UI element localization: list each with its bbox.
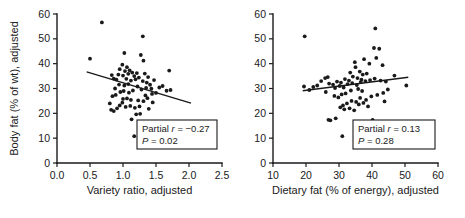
data-point (121, 74, 125, 78)
x-axis-ticks-left: 0.00.51.01.52.02.5 (50, 163, 230, 181)
data-point (149, 87, 153, 91)
data-point (146, 75, 150, 79)
data-point (161, 84, 165, 88)
x-axis-title-left: Variety ratio, adjusted (87, 184, 193, 196)
data-point (148, 83, 152, 87)
data-point (130, 71, 134, 75)
data-point (138, 104, 142, 108)
data-point (113, 87, 117, 91)
data-point (167, 69, 171, 73)
data-point (393, 74, 397, 78)
data-point (350, 99, 354, 103)
data-point (351, 75, 355, 79)
data-point (126, 72, 130, 76)
scatter-plot-left-svg: 0102030405060 0.00.51.01.52.02.5 Body fa… (0, 0, 232, 218)
data-point (138, 112, 142, 116)
data-point (319, 79, 323, 83)
data-point (353, 60, 357, 64)
data-point (139, 53, 143, 57)
data-point (129, 79, 133, 83)
data-point (122, 89, 126, 93)
data-point (367, 62, 371, 66)
y-axis-ticks-left: 0102030405060 (38, 8, 57, 169)
y-tick-label: 40 (38, 57, 50, 69)
data-point (345, 102, 349, 106)
data-point (366, 104, 370, 108)
x-tick-label: 1.5 (149, 169, 164, 181)
data-point (145, 81, 149, 85)
stats-p-value-left: P = 0.02 (142, 135, 178, 146)
data-point (324, 90, 328, 94)
data-point (365, 72, 369, 76)
data-point (120, 63, 124, 67)
data-point (338, 105, 342, 109)
data-point (343, 77, 347, 81)
data-point (339, 81, 343, 85)
data-point (336, 96, 340, 100)
data-point (117, 83, 121, 87)
data-point (326, 75, 330, 79)
data-point (133, 106, 137, 110)
data-point (134, 77, 138, 81)
data-point (132, 74, 136, 78)
data-point (130, 117, 134, 121)
data-point (311, 85, 315, 89)
data-point (124, 105, 128, 109)
data-point (381, 91, 385, 95)
data-point (141, 79, 145, 83)
data-point (356, 87, 360, 91)
data-point (143, 72, 147, 76)
data-point (342, 107, 346, 111)
x-tick-label: 10 (267, 169, 279, 181)
data-point (122, 51, 126, 55)
data-point (135, 71, 139, 75)
data-point (125, 97, 129, 101)
data-point (142, 59, 146, 63)
stats-annotation-right: Partial r = 0.13 P = 0.28 (353, 120, 435, 149)
data-point (132, 134, 136, 138)
x-tick-label: 1.0 (116, 169, 131, 181)
data-point (137, 76, 141, 80)
data-point (141, 34, 145, 38)
data-point (375, 93, 379, 97)
data-point (364, 98, 368, 102)
regression-line-right (303, 77, 409, 90)
y-tick-label: 50 (38, 32, 50, 44)
plot-area-right: 0102030405060 102030405060 (254, 8, 444, 181)
data-point (358, 96, 362, 100)
y-tick-label: 0 (44, 157, 50, 169)
x-axis-ticks-right: 102030405060 (267, 163, 444, 181)
data-point (356, 76, 360, 80)
y-tick-label: 10 (254, 132, 266, 144)
data-point (303, 34, 307, 38)
data-point (120, 101, 124, 105)
figure-container: 0102030405060 0.00.51.01.52.02.5 Body fa… (0, 0, 465, 218)
data-point (112, 109, 116, 113)
data-point (354, 65, 358, 69)
data-point (327, 82, 331, 86)
data-point (340, 93, 344, 97)
data-point (115, 106, 119, 110)
stats-p-value-right: P = 0.28 (358, 135, 394, 146)
data-point (404, 84, 408, 88)
y-tick-label: 60 (254, 8, 266, 20)
data-point (381, 63, 385, 67)
data-point (335, 80, 339, 84)
data-point (121, 97, 125, 101)
x-axis-title-right: Dietary fat (% of energy), adjusted (272, 184, 439, 196)
data-point (142, 99, 146, 103)
y-tick-label: 20 (254, 107, 266, 119)
data-point (111, 94, 115, 98)
data-point (358, 70, 362, 74)
data-point (152, 78, 156, 82)
data-point (131, 89, 135, 93)
scatter-plot-right-svg: 0102030405060 102030405060 Dietary fat (… (233, 0, 465, 218)
data-point (118, 103, 122, 107)
data-point (124, 77, 128, 81)
data-point (331, 83, 335, 87)
y-tick-label: 20 (38, 107, 50, 119)
data-point (386, 88, 390, 92)
data-point (334, 116, 338, 120)
x-tick-label: 20 (300, 169, 312, 181)
data-point (88, 57, 92, 61)
